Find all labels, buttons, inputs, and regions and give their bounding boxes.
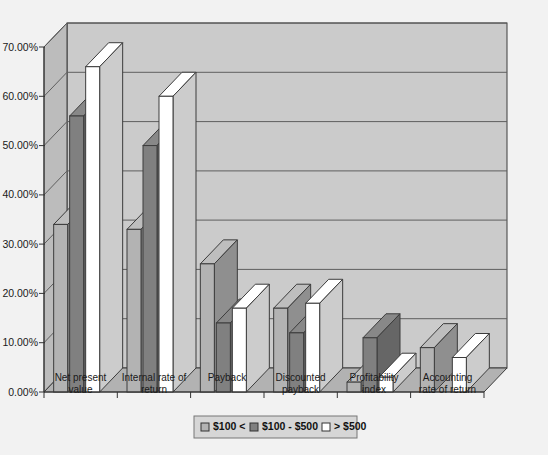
bar-front-face xyxy=(143,146,157,392)
y-tick-label-50: 50.00% xyxy=(2,139,38,151)
bar-side-face xyxy=(100,43,123,392)
legend-swatch-2 xyxy=(322,423,330,431)
chart-container: 70.00% 60.00% 50.00% 40.00% 30.00% 20.00… xyxy=(0,0,548,455)
y-tick-label-40: 40.00% xyxy=(2,188,38,200)
legend-label-0: $100 < xyxy=(213,420,245,432)
y-tick-label-30: 30.00% xyxy=(2,238,38,250)
category-label-discounted-payback: Discountedpayback xyxy=(275,372,325,395)
bar-1-2 xyxy=(159,72,196,392)
bar-front-face xyxy=(347,382,361,392)
y-tick-label-60: 60.00% xyxy=(2,90,38,102)
bar-chart: 70.00% 60.00% 50.00% 40.00% 30.00% 20.00… xyxy=(0,0,548,455)
bar-front-face xyxy=(86,67,100,392)
bar-front-face xyxy=(54,224,68,392)
legend: $100 < $100 - $500 > $500 xyxy=(194,416,367,438)
bar-side-face xyxy=(173,72,196,392)
bar-front-face xyxy=(127,229,141,392)
bar-0-2 xyxy=(86,43,123,392)
y-tick-label-20: 20.00% xyxy=(2,287,38,299)
category-label-accounting-rate-of-return: Accountingrate of return xyxy=(419,372,476,395)
category-label-payback: Payback xyxy=(208,372,247,383)
bar-front-face xyxy=(70,116,84,392)
bar-front-face xyxy=(159,96,173,392)
y-tick-label-70: 70.00% xyxy=(2,41,38,53)
legend-swatch-1 xyxy=(250,423,258,431)
y-tick-label-10: 10.00% xyxy=(2,336,38,348)
legend-swatch-0 xyxy=(201,423,209,431)
legend-label-2: > $500 xyxy=(334,420,367,432)
legend-label-1: $100 - $500 xyxy=(262,420,318,432)
y-tick-label-0: 0.00% xyxy=(8,386,38,398)
